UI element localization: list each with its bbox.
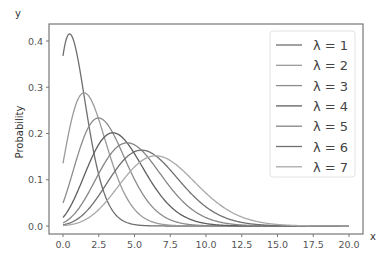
legend-label: λ = 4 bbox=[313, 99, 348, 114]
legend-label: λ = 1 bbox=[313, 38, 348, 53]
y-tick-label: 0.0 bbox=[28, 221, 43, 232]
x-tick-label: 20.0 bbox=[338, 239, 359, 250]
legend-label: λ = 2 bbox=[313, 58, 348, 73]
x-tick-label: 0.0 bbox=[55, 239, 70, 250]
legend: λ = 1λ = 2λ = 3λ = 4λ = 5λ = 6λ = 7 bbox=[270, 31, 355, 177]
legend-label: λ = 5 bbox=[313, 119, 348, 134]
x-tick-label: 15.0 bbox=[267, 239, 288, 250]
y-tick-label: 0.2 bbox=[28, 128, 43, 139]
y-tick-label: 0.4 bbox=[28, 36, 43, 47]
legend-label: λ = 7 bbox=[313, 160, 348, 175]
poisson-chart: 0.02.55.07.510.012.515.017.520.0 0.00.10… bbox=[0, 0, 385, 266]
x-axis-ticks: 0.02.55.07.510.012.515.017.520.0 bbox=[55, 234, 359, 250]
x-tick-label: 7.5 bbox=[163, 239, 178, 250]
x-axis-label: x bbox=[370, 231, 376, 242]
y-tick-label: 0.1 bbox=[28, 174, 43, 185]
x-tick-label: 10.0 bbox=[195, 239, 216, 250]
x-tick-label: 2.5 bbox=[91, 239, 106, 250]
legend-label: λ = 3 bbox=[313, 79, 348, 94]
legend-label: λ = 6 bbox=[313, 140, 348, 155]
x-tick-label: 5.0 bbox=[127, 239, 142, 250]
x-tick-label: 12.5 bbox=[231, 239, 252, 250]
y-axis-ticks: 0.00.10.20.30.4 bbox=[28, 36, 49, 232]
y-tick-label: 0.3 bbox=[28, 82, 43, 93]
x-tick-label: 17.5 bbox=[303, 239, 324, 250]
y-axis-label: Probability bbox=[14, 105, 25, 158]
y-corner-label: y bbox=[15, 8, 21, 19]
